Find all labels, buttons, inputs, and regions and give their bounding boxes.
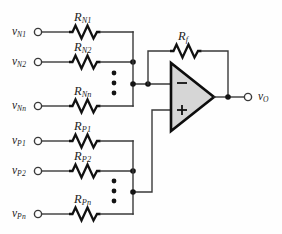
- input-terminal-vnn[interactable]: [34, 102, 41, 109]
- output-terminal-vo[interactable]: [244, 93, 251, 100]
- label-vp2: vP2: [12, 165, 26, 177]
- input-row-pn: [34, 208, 133, 221]
- label-rn2: RN2: [74, 41, 92, 54]
- resistor-rnn-symbol: [69, 100, 101, 113]
- resistor-rp2-symbol: [69, 165, 101, 178]
- resistor-rn1-symbol: [69, 26, 101, 39]
- input-row-p2: [34, 165, 135, 178]
- resistor-rpn-symbol: [69, 208, 101, 221]
- label-vn2: vN2: [12, 56, 26, 68]
- junction-dot-output: [225, 94, 231, 100]
- wire-bus-to-noninverting-input: [133, 110, 171, 192]
- input-row-n2: [34, 56, 135, 69]
- ellipsis-noninverting: [112, 179, 117, 204]
- label-rp1: RP1: [74, 120, 91, 133]
- input-row-p1: [34, 135, 133, 148]
- input-terminal-vp2[interactable]: [34, 167, 41, 174]
- resistor-rf-symbol: [170, 45, 202, 58]
- label-vo: vO: [258, 91, 269, 103]
- output-network: [214, 93, 252, 100]
- input-row-n1: [34, 26, 133, 39]
- input-terminal-vpn[interactable]: [34, 210, 41, 217]
- label-rf: Rf: [178, 30, 188, 43]
- wire-feedback-left: [148, 51, 170, 84]
- label-rn1: RN1: [74, 11, 92, 24]
- opamp-triangle: [171, 63, 214, 131]
- label-rp2: RP2: [74, 150, 91, 163]
- resistor-rp1-symbol: [69, 135, 101, 148]
- operational-amplifier[interactable]: [171, 63, 214, 131]
- label-vp1: vP1: [12, 135, 26, 147]
- junction-dot-noninverting-bus: [130, 189, 136, 195]
- input-terminal-vp1[interactable]: [34, 137, 41, 144]
- label-vn1: vN1: [12, 26, 26, 38]
- label-rpn: RPn: [74, 193, 91, 206]
- label-rnn: RNn: [74, 85, 92, 98]
- label-vnn: vNn: [12, 100, 26, 112]
- ellipsis-inverting: [112, 71, 117, 96]
- junction-dot-inverting-bus: [130, 81, 136, 87]
- input-terminal-vn1[interactable]: [34, 28, 41, 35]
- label-vpn: vPn: [12, 208, 26, 220]
- circuit-figure: vN1 vN2 vNn vP1 vP2 vPn RN1 RN2 RNn RP1 …: [0, 0, 282, 234]
- input-terminal-vn2[interactable]: [34, 58, 41, 65]
- input-row-nn: [34, 100, 133, 113]
- resistor-rn2-symbol: [69, 56, 101, 69]
- circuit-schematic-svg: [0, 0, 282, 234]
